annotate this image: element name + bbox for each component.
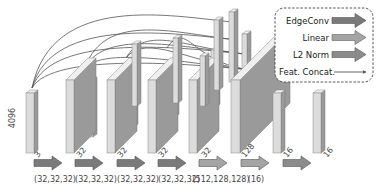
input-dim-label: 4096 [8, 108, 17, 128]
block-l2norm-side [321, 90, 325, 153]
block-layer-3 [214, 17, 223, 90]
block-edgeconv1-front [66, 80, 74, 153]
op-label-3: (32,32,32) [117, 175, 159, 184]
op-arrow-5 [199, 156, 227, 170]
channel-label-input: 3 [33, 150, 43, 160]
op-label-2: (32,32,32) [75, 175, 117, 184]
block-edgeconv3-front [148, 80, 156, 153]
legend-label-edgeconv: EdgeConv [286, 16, 329, 26]
block-input [26, 90, 38, 153]
block-layer-4 [229, 9, 238, 82]
block-linear [273, 90, 285, 153]
block-layer-2 [173, 35, 182, 103]
block-layer-5-side [205, 53, 209, 106]
block-layer-1 [132, 41, 141, 106]
block-layer-2-side [178, 35, 182, 103]
block-l2norm [313, 90, 325, 153]
op-label-6: (16) [248, 175, 264, 184]
block-layer-2-front [173, 38, 178, 103]
block-layer-4-side [234, 9, 238, 82]
op-label-5: (512,128,128) [192, 175, 249, 184]
block-l2norm-front [313, 93, 321, 153]
block-layer-1-side [137, 41, 141, 106]
operation-labels: (32,32,32) (32,32,32) (32,32,32) (32,32,… [34, 175, 264, 184]
block-input-side [34, 90, 38, 153]
block-concat-front [231, 80, 240, 153]
legend-label-linear: Linear [303, 33, 330, 43]
block-edgeconv4-front [189, 80, 197, 153]
block-edgeconv1 [66, 58, 96, 153]
legend-label-feat-concat: Feat. Concat. [279, 67, 335, 77]
block-input-front [26, 93, 34, 153]
block-layer-5-front [200, 56, 205, 106]
block-layer-4-front [229, 12, 234, 82]
block-layer-5 [200, 53, 209, 106]
block-layer-1-front [132, 44, 137, 106]
block-edgeconv2-front [107, 80, 115, 153]
operation-arrows [34, 156, 311, 170]
legend: EdgeConv Linear L2 Norm Feat. Concat. [275, 8, 373, 82]
network-architecture-diagram: 4096 3 32 32 32 32 128 16 16 (32,32,32) … [0, 0, 378, 196]
block-linear-side [281, 90, 285, 153]
legend-label-l2norm: L2 Norm [293, 50, 329, 60]
block-linear-front [273, 93, 281, 153]
op-label-1: (32,32,32) [34, 175, 76, 184]
block-layer-3-front [214, 20, 219, 90]
block-layer-3-side [219, 17, 223, 90]
